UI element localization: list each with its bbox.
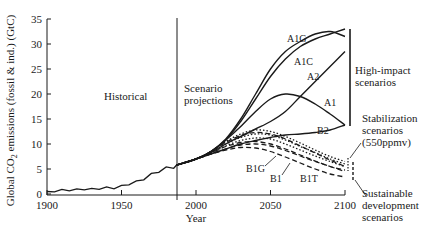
historical-label: Historical: [104, 90, 147, 102]
x-tick-label: 2100: [334, 199, 357, 211]
y-tick-label: 10: [31, 138, 43, 150]
leader-stabilization: [350, 143, 361, 158]
sustainable-label: scenarios: [362, 211, 403, 223]
stabilization-label: scenarios: [362, 124, 403, 136]
y-tick-label: 15: [31, 113, 43, 125]
label-a1g: A1G: [287, 33, 306, 44]
x-tick-label: 1900: [36, 199, 59, 211]
label-a1: A1: [324, 97, 336, 108]
series-a2-line: [177, 52, 345, 166]
x-tick-label: 1950: [111, 199, 134, 211]
label-b2: B2: [317, 125, 329, 136]
sustainable-label: Sustainable: [362, 187, 413, 199]
series-stabilization-2-line: [177, 134, 345, 165]
y-tick-label: 30: [31, 38, 43, 50]
x-tick-label: 2050: [260, 199, 283, 211]
x-axis-label: Year: [186, 212, 207, 224]
leader-b1g: [265, 156, 276, 166]
label-b1g: B1G: [246, 163, 265, 174]
x-tick-label: 2000: [185, 199, 208, 211]
label-a1c: A1C: [294, 56, 313, 67]
projections-label: Scenario: [184, 82, 223, 94]
historical-line: [47, 165, 177, 192]
leader-b1: [282, 163, 290, 175]
y-tick-label: 5: [37, 163, 43, 175]
y-tick-label: 35: [31, 13, 43, 25]
high-impact-label: scenarios: [355, 76, 396, 88]
label-b1t: B1T: [300, 173, 318, 184]
label-b1: B1: [270, 173, 282, 184]
label-a2: A2: [307, 71, 319, 82]
emissions-chart: 0510152025303519001950200020502100YearGl…: [0, 0, 429, 236]
series-b1g-line: [177, 132, 345, 166]
y-tick-label: 25: [31, 63, 43, 75]
stabilization-label: Stabilization: [362, 112, 418, 124]
series-lines: [47, 29, 345, 192]
projections-label: projections: [184, 94, 233, 106]
stabilization-label: (550ppmv): [362, 136, 411, 149]
y-axis-label: Global CO2 emissions (fossil & ind.) (Gt…: [4, 15, 19, 207]
high-impact-label: High-impact: [355, 64, 411, 76]
sustainable-label: development: [362, 199, 419, 211]
y-tick-label: 20: [31, 88, 43, 100]
